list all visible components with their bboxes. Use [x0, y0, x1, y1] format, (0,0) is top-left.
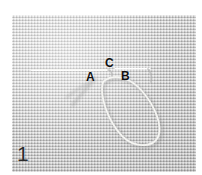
photo-vignette [12, 15, 196, 172]
stitch-marker-a: A [86, 71, 95, 83]
step-number-label: 1 [17, 143, 29, 164]
instruction-figure: A B C 1 [0, 0, 202, 175]
stitch-marker-b: B [121, 70, 130, 82]
fabric-photo [12, 15, 196, 172]
stitch-marker-c: C [105, 57, 114, 69]
